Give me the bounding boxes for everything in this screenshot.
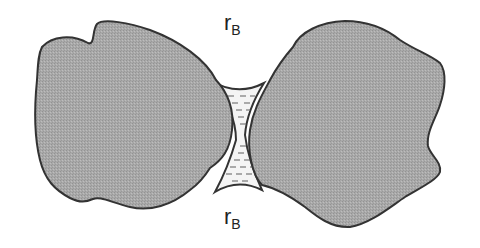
- bridge-radius-label-top: rB: [224, 12, 241, 37]
- left-grain: [35, 21, 232, 208]
- bridge-radius-label-bottom: rB: [224, 206, 241, 231]
- label-subscript: B: [231, 216, 240, 232]
- right-grain: [249, 21, 444, 227]
- label-subscript: B: [231, 22, 240, 38]
